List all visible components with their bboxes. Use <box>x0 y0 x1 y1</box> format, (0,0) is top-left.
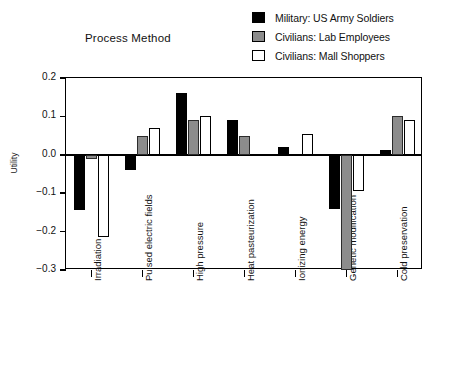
legend-swatch-icon <box>252 12 265 23</box>
legend-swatch-icon <box>252 31 265 42</box>
bar <box>341 155 353 270</box>
x-tick-label: Ionizing energy <box>296 217 307 281</box>
y-tick-mark <box>60 269 66 271</box>
bar <box>404 120 416 155</box>
bar <box>149 128 161 155</box>
bar <box>392 116 404 154</box>
bar <box>227 120 239 155</box>
y-tick-label: 0.2 <box>42 71 56 82</box>
y-tick-mark <box>60 154 66 156</box>
y-tick-label: −0.1 <box>36 186 56 197</box>
y-tick-label: −0.2 <box>36 225 56 236</box>
legend-item: Military: US Army Soldiers <box>252 8 447 27</box>
y-tick-mark <box>60 231 66 233</box>
bar <box>176 93 188 154</box>
x-tick-label: Pulsed electric fields <box>143 194 154 281</box>
y-tick-mark <box>60 116 66 118</box>
legend-item-label: Civilians: Mall Shoppers <box>275 50 385 62</box>
bar <box>86 155 98 160</box>
y-axis-label: Utility <box>9 138 19 188</box>
legend-item-label: Civilians: Lab Employees <box>275 31 390 43</box>
y-tick-mark <box>60 77 66 79</box>
plot-area: 0.20.10.0−0.1−0.2−0.3 IrradiationPulsed … <box>65 77 422 269</box>
legend-item-label: Military: US Army Soldiers <box>275 12 394 24</box>
y-tick-mark <box>60 192 66 194</box>
bar <box>329 155 341 209</box>
y-tick-label: 0.1 <box>42 109 56 120</box>
bar <box>98 155 110 238</box>
bar <box>302 134 314 155</box>
bar <box>188 120 200 155</box>
bar <box>125 155 137 170</box>
legend-swatch-icon <box>252 50 265 61</box>
y-tick-label: 0.0 <box>42 148 56 159</box>
bar <box>200 116 212 154</box>
bar <box>239 136 251 155</box>
chart-title: Process Method <box>85 32 171 44</box>
legend-item: Civilians: Mall Shoppers <box>252 46 447 65</box>
x-tick-label: Irradiation <box>92 239 103 281</box>
bar <box>278 147 290 155</box>
chart-legend: Military: US Army Soldiers Civilians: La… <box>252 8 447 65</box>
x-tick-label: Cold preservation <box>398 207 409 281</box>
legend-item: Civilians: Lab Employees <box>252 27 447 46</box>
bar <box>137 136 149 155</box>
x-tick-label: Heat pasteurization <box>245 199 256 281</box>
y-tick-label: −0.3 <box>36 263 56 274</box>
bar <box>74 155 86 211</box>
bar <box>380 150 392 155</box>
bar <box>353 155 365 191</box>
x-tick-label: High pressure <box>194 222 205 281</box>
